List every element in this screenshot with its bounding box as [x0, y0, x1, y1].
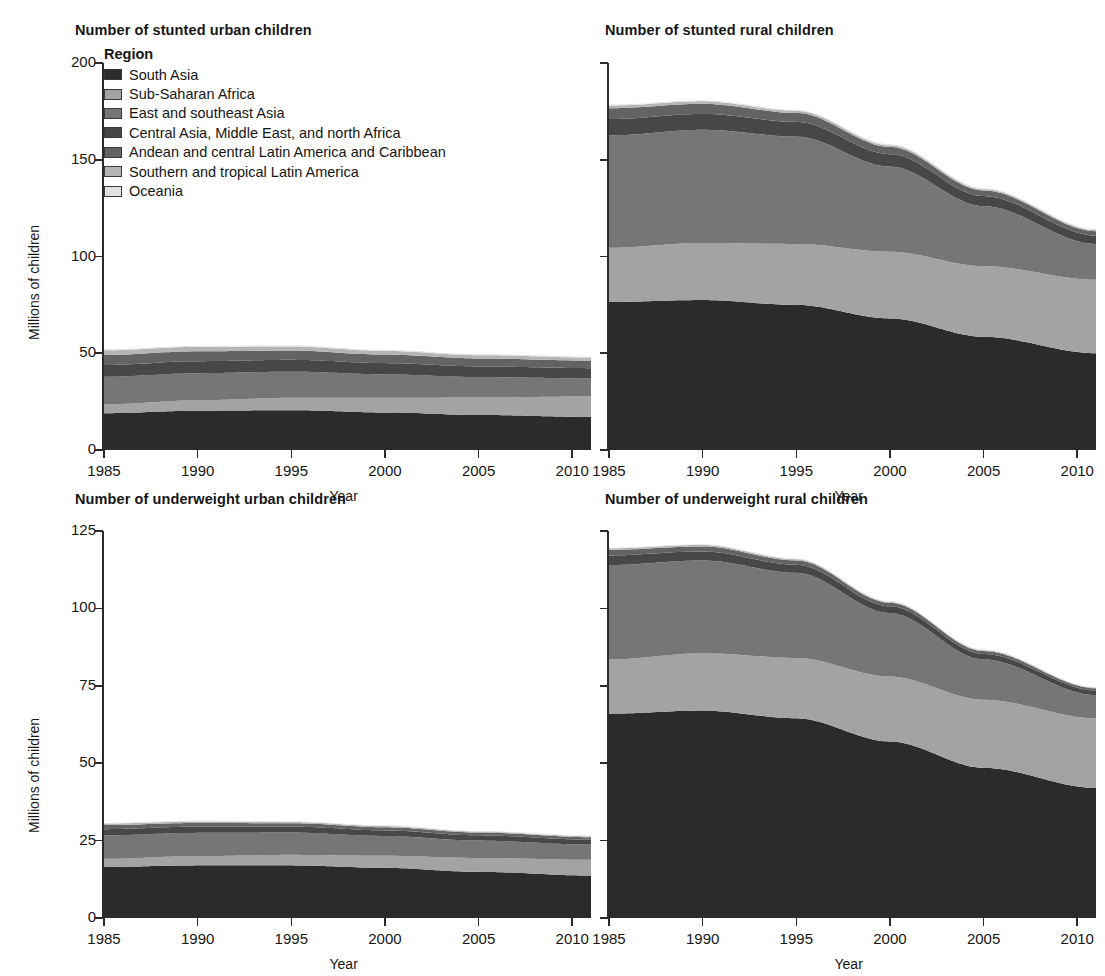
legend-swatch-icon	[104, 127, 122, 138]
legend-item-label: Sub-Saharan Africa	[129, 86, 255, 102]
x-tick-label: 2005	[462, 462, 495, 479]
legend-item-label: Oceania	[129, 183, 183, 199]
area-series-south-asia	[104, 410, 591, 450]
x-tick-label: 2000	[368, 462, 401, 479]
legend-item[interactable]: South Asia	[104, 65, 446, 84]
chart-svg-underweight-rural	[545, 488, 1105, 976]
x-tick-label: 1995	[780, 930, 813, 947]
x-tick-label: 1985	[592, 462, 625, 479]
y-tick-label: 150	[36, 150, 96, 167]
y-tick-label: 200	[36, 53, 96, 70]
legend-item-label: Southern and tropical Latin America	[129, 164, 359, 180]
panel-underweight-rural: Number of underweight rural children 198…	[545, 488, 1105, 976]
legend-items: South AsiaSub-Saharan AfricaEast and sou…	[104, 65, 446, 201]
y-tick-label: 100	[36, 598, 96, 615]
x-tick-label: 2000	[873, 930, 906, 947]
x-axis-title: Year	[835, 956, 863, 972]
x-axis-title: Year	[330, 956, 358, 972]
x-tick-label: 1985	[87, 462, 120, 479]
x-tick-label: 1995	[780, 462, 813, 479]
legend-item-label: Central Asia, Middle East, and north Afr…	[129, 125, 401, 141]
x-tick-label: 2005	[967, 462, 1000, 479]
x-tick-label: 2005	[967, 930, 1000, 947]
x-tick-label: 1995	[275, 462, 308, 479]
legend-item[interactable]: Oceania	[104, 181, 446, 200]
y-tick-label: 25	[36, 831, 96, 848]
legend-swatch-icon	[104, 89, 122, 100]
legend: Region South AsiaSub-Saharan AfricaEast …	[104, 46, 446, 201]
x-tick-label: 1990	[686, 462, 719, 479]
legend-swatch-icon	[104, 147, 122, 158]
legend-swatch-icon	[104, 69, 122, 80]
y-tick-label: 50	[36, 753, 96, 770]
legend-item[interactable]: Central Asia, Middle East, and north Afr…	[104, 123, 446, 142]
legend-item-label: Andean and central Latin America and Car…	[129, 144, 446, 160]
y-tick-label: 0	[36, 908, 96, 925]
x-tick-label: 2000	[368, 930, 401, 947]
x-tick-label: 1990	[181, 930, 214, 947]
x-tick-label: 1985	[87, 930, 120, 947]
y-tick-label: 75	[36, 676, 96, 693]
x-tick-label: 2010	[1061, 462, 1094, 479]
legend-swatch-icon	[104, 186, 122, 197]
x-tick-label: 1995	[275, 930, 308, 947]
y-tick-label: 50	[36, 343, 96, 360]
legend-item-label: East and southeast Asia	[129, 105, 285, 121]
legend-item[interactable]: Andean and central Latin America and Car…	[104, 143, 446, 162]
y-tick-label: 125	[36, 521, 96, 538]
legend-title: Region	[104, 46, 446, 62]
y-tick-label: 100	[36, 247, 96, 264]
legend-item[interactable]: Sub-Saharan Africa	[104, 84, 446, 103]
legend-swatch-icon	[104, 108, 122, 119]
legend-swatch-icon	[104, 166, 122, 177]
x-tick-label: 1990	[181, 462, 214, 479]
x-tick-label: 1990	[686, 930, 719, 947]
x-tick-label: 2000	[873, 462, 906, 479]
x-tick-label: 1985	[592, 930, 625, 947]
y-tick-label: 0	[36, 440, 96, 457]
plot-area-stunted-rural: 198519901995200020052010Year	[545, 0, 1105, 488]
legend-item[interactable]: East and southeast Asia	[104, 104, 446, 123]
panel-stunted-rural: Number of stunted rural children 1985199…	[545, 0, 1105, 488]
panel-underweight-urban: Number of underweight urban children Mil…	[0, 488, 600, 976]
legend-item-label: South Asia	[129, 67, 198, 83]
x-tick-label: 2005	[462, 930, 495, 947]
legend-item[interactable]: Southern and tropical Latin America	[104, 162, 446, 181]
x-tick-label: 2010	[1061, 930, 1094, 947]
plot-area-underweight-rural: 198519901995200020052010Year	[545, 488, 1105, 976]
chart-svg-stunted-rural	[545, 0, 1105, 488]
area-series-south-asia	[104, 865, 591, 918]
